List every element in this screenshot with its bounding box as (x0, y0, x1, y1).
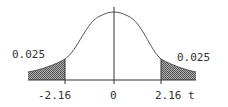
axis-variable-label: t (188, 89, 195, 102)
right-tick-label: 2.16 (155, 89, 182, 102)
right-area-label: 0.025 (177, 51, 210, 64)
t-distribution-chart: 0.025 0.025 -2.16 0 2.16 t (0, 0, 228, 107)
left-area-label: 0.025 (12, 48, 45, 61)
density-curve (28, 12, 196, 72)
center-tick-label: 0 (110, 89, 117, 102)
left-tick-label: -2.16 (38, 89, 71, 102)
